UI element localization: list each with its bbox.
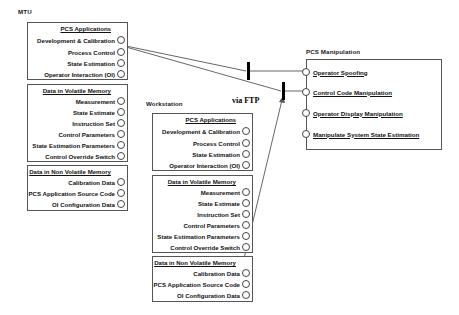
- port-circle-icon[interactable]: [242, 243, 250, 251]
- pcs-row-operator-spoofing[interactable]: Operator Spoofing: [307, 66, 368, 78]
- mtu-row-operator-interaction[interactable]: Operator Interaction (OI): [26, 68, 127, 80]
- row-label: State Estimation: [67, 60, 115, 67]
- mtu-panel-non-volatile-memory: Data in Non Volatile Memory Calibration …: [27, 165, 128, 211]
- pcs-row-control-code-manipulation[interactable]: Control Code Manipulation: [307, 86, 392, 98]
- port-circle-icon[interactable]: [242, 221, 250, 229]
- port-circle-icon[interactable]: [117, 97, 125, 105]
- port-circle-icon[interactable]: [242, 280, 250, 288]
- row-label: PCS Application Source Code: [154, 281, 240, 288]
- workstation-row-operator-interaction[interactable]: Operator Interaction (OI): [151, 159, 252, 171]
- workstation-row-development-calibration[interactable]: Development & Calibration: [151, 125, 252, 137]
- port-circle-icon[interactable]: [117, 152, 125, 160]
- row-label: Calibration Data: [193, 270, 240, 277]
- row-label: State Estimation: [192, 151, 240, 158]
- port-circle-icon[interactable]: [242, 161, 250, 169]
- panel-title: Data in Volatile Memory: [168, 178, 236, 185]
- row-label: Control Code Manipulation: [313, 89, 392, 96]
- pcs-manipulation-panel: Operator Spoofing Control Code Manipulat…: [306, 59, 442, 150]
- port-circle-icon[interactable]: [242, 188, 250, 196]
- row-label: Operator Spoofing: [313, 69, 368, 76]
- port-circle-icon[interactable]: [242, 291, 250, 299]
- row-label: Process Control: [68, 49, 115, 56]
- workstation-row-oi-configuration-data[interactable]: OI Configuration Data: [151, 289, 252, 301]
- row-label: State Estimation Parameters: [157, 233, 240, 240]
- row-label: State Estimate: [198, 200, 240, 207]
- panel-title: PCS Applications: [185, 116, 236, 123]
- port-circle-icon[interactable]: [117, 70, 125, 78]
- port-circle-icon[interactable]: [242, 139, 250, 147]
- row-label: Control Parameters: [183, 222, 240, 229]
- panel-title: Data in Non Volatile Memory: [29, 168, 111, 175]
- port-circle-icon[interactable]: [117, 36, 125, 44]
- mtu-label: MTU: [18, 8, 32, 15]
- port-circle-icon[interactable]: [302, 88, 310, 96]
- row-label: Measurement: [76, 98, 115, 105]
- pcs-row-manipulate-system-state-estimation[interactable]: Manipulate System State Estimation: [307, 128, 419, 140]
- row-label: Operator Display Manipulation: [313, 110, 403, 117]
- row-label: State Estimate: [73, 109, 115, 116]
- port-circle-icon[interactable]: [117, 189, 125, 197]
- port-circle-icon[interactable]: [117, 48, 125, 56]
- port-circle-icon[interactable]: [302, 109, 310, 117]
- mtu-panel-volatile-memory: Data in Volatile Memory Measurement Stat…: [27, 84, 128, 162]
- row-label: Measurement: [201, 189, 240, 196]
- workstation-panel-non-volatile-memory: Data in Non Volatile Memory Calibration …: [152, 256, 253, 302]
- workstation-row-control-override-switch[interactable]: Control Override Switch: [151, 241, 252, 253]
- row-label: Operator Interaction (OI): [44, 71, 115, 78]
- port-circle-icon[interactable]: [302, 130, 310, 138]
- panel-title: PCS Applications: [60, 25, 111, 32]
- port-circle-icon[interactable]: [242, 210, 250, 218]
- workstation-label: Workstation: [146, 100, 183, 107]
- port-circle-icon[interactable]: [117, 141, 125, 149]
- row-label: Operator Interaction (OI): [169, 162, 240, 169]
- mtu-panel-pcs-applications: PCS Applications Development & Calibrati…: [27, 22, 128, 80]
- port-circle-icon[interactable]: [242, 150, 250, 158]
- port-circle-icon[interactable]: [117, 130, 125, 138]
- port-circle-icon[interactable]: [117, 108, 125, 116]
- row-label: Instruction Set: [72, 120, 115, 127]
- via-ftp-label: via FTP: [232, 96, 259, 105]
- row-label: Development & Calibration: [37, 37, 115, 44]
- row-label: Manipulate System State Estimation: [313, 131, 419, 138]
- workstation-panel-pcs-applications: PCS Applications Development & Calibrati…: [152, 113, 253, 171]
- panel-title: Data in Non Volatile Memory: [154, 259, 236, 266]
- port-circle-icon[interactable]: [117, 59, 125, 67]
- port-circle-icon[interactable]: [242, 232, 250, 240]
- row-label: Instruction Set: [197, 211, 240, 218]
- pcs-row-operator-display-manipulation[interactable]: Operator Display Manipulation: [307, 107, 403, 119]
- mtu-row-oi-configuration-data[interactable]: OI Configuration Data: [26, 198, 127, 210]
- port-circle-icon[interactable]: [242, 199, 250, 207]
- row-label: Control Parameters: [58, 131, 115, 138]
- row-label: State Estimation Parameters: [32, 142, 115, 149]
- port-circle-icon[interactable]: [242, 127, 250, 135]
- mtu-row-development-calibration[interactable]: Development & Calibration: [26, 34, 127, 46]
- workstation-panel-volatile-memory: Data in Volatile Memory Measurement Stat…: [152, 175, 253, 253]
- ftp-bar-lower: [282, 82, 285, 100]
- row-label: OI Configuration Data: [177, 292, 240, 299]
- row-label: PCS Application Source Code: [29, 190, 115, 197]
- port-circle-icon[interactable]: [117, 200, 125, 208]
- port-circle-icon[interactable]: [117, 178, 125, 186]
- port-circle-icon[interactable]: [302, 68, 310, 76]
- port-circle-icon[interactable]: [117, 119, 125, 127]
- row-label: OI Configuration Data: [52, 201, 115, 208]
- panel-title: Data in Volatile Memory: [43, 87, 111, 94]
- row-label: Process Control: [193, 140, 240, 147]
- row-label: Control Override Switch: [45, 153, 115, 160]
- ftp-bar-upper: [247, 62, 250, 80]
- row-label: Control Override Switch: [170, 244, 240, 251]
- port-circle-icon[interactable]: [242, 269, 250, 277]
- pcs-manipulation-label: PCS Manipulation: [306, 48, 360, 55]
- mtu-row-control-override-switch[interactable]: Control Override Switch: [26, 150, 127, 162]
- row-label: Calibration Data: [68, 179, 115, 186]
- row-label: Development & Calibration: [162, 128, 240, 135]
- diagram-canvas: via FTP MTU PCS Applications Development…: [0, 0, 459, 315]
